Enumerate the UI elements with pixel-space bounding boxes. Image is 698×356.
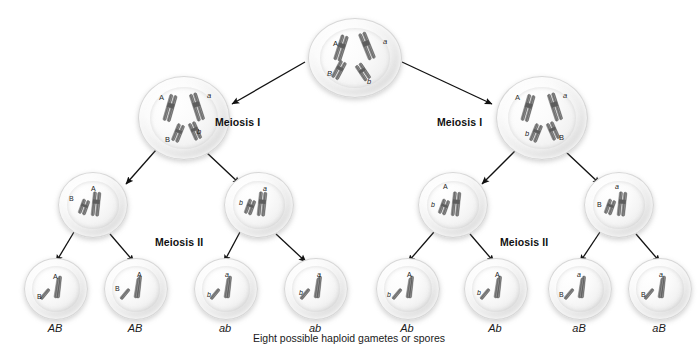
allele-label-A: A [137,271,142,278]
arrow-parent-to-right [402,62,492,104]
allele-label-b: b [387,291,391,298]
chromosome-cluster [585,173,653,237]
chromosome-cluster [549,259,611,319]
allele-label-A: A [333,39,338,48]
chromosome-cluster [25,259,87,319]
allele-label-a: a [615,183,619,190]
allele-label-b: b [239,199,243,206]
allele-label-B: B [165,135,170,144]
allele-label-B: B [37,293,42,300]
chromosome-cluster [465,259,527,319]
allele-label-A: A [495,271,500,278]
stage-label-meiosis-1-right: Meiosis I [437,116,482,128]
gamete-2: AB [104,258,168,320]
arrow-parent-to-left [232,62,305,104]
meiosis-diagram: AaBbAaBbAabBBAabAbaBABABABABababababAbAb… [0,0,698,356]
allele-label-B: B [597,201,602,208]
gamete-8: aB [628,258,692,320]
diagram-caption: Eight possible haploid gametes or spores [0,332,698,344]
allele-label-b: b [367,77,371,86]
allele-label-a: a [577,271,581,278]
chromosome-cluster [225,173,293,237]
allele-label-B: B [115,285,120,292]
allele-label-a: a [317,271,321,278]
allele-label-a: a [563,91,567,100]
parent-cell: AaBb [308,18,402,98]
allele-label-B: B [327,69,332,78]
meiosis2-cell-1: BA [58,172,128,238]
allele-label-b: b [525,129,529,138]
arrow-m1r-to-g3 [482,150,516,184]
allele-label-a: a [225,271,229,278]
allele-label-A: A [407,271,412,278]
allele-label-a: a [659,271,663,278]
allele-label-a: a [263,185,267,192]
allele-label-a: a [383,37,387,46]
arrow-m2c2-to-gam4 [276,234,306,262]
allele-label-B: B [641,291,646,298]
gamete-5: Ab [376,258,440,320]
allele-label-B: B [559,133,564,142]
allele-label-B: B [69,195,74,202]
allele-label-A: A [515,93,520,102]
gamete-1: AB [24,258,88,320]
chromosome-cluster [497,77,587,159]
gamete-6: Ab [464,258,528,320]
gamete-4: ab [284,258,348,320]
meiosis2-cell-2: ab [224,172,294,238]
chromosome-cluster [419,173,487,237]
arrow-m1l-to-g2 [206,152,240,184]
chromosome-cluster [59,173,127,237]
allele-label-B: B [559,291,564,298]
chromosome-cluster [285,259,347,319]
stage-label-meiosis-2-left: Meiosis II [155,236,203,248]
gamete-3: ab [194,258,258,320]
arrow-m1r-to-g4 [566,152,600,184]
chromosome-cluster [629,259,691,319]
chromosome-cluster [309,19,401,97]
allele-label-b: b [197,127,201,136]
chromosome-cluster [377,259,439,319]
gamete-7: aB [548,258,612,320]
allele-label-b: b [431,201,435,208]
meiosis2-cell-4: aB [584,172,654,238]
stage-label-meiosis-1-left: Meiosis I [215,116,260,128]
allele-label-A: A [443,183,448,190]
allele-label-A: A [91,185,96,192]
arrow-m1l-to-g1 [126,150,156,184]
chromosome-cluster [195,259,257,319]
allele-label-b: b [207,291,211,298]
meiosis2-cell-3: Ab [418,172,488,238]
allele-label-b: b [299,289,303,296]
meiosis1-cell-right: AabB [496,76,588,160]
allele-label-b: b [477,289,481,296]
allele-label-A: A [53,273,58,280]
allele-label-A: A [159,93,164,102]
allele-label-a: a [207,91,211,100]
stage-label-meiosis-2-right: Meiosis II [500,236,548,248]
